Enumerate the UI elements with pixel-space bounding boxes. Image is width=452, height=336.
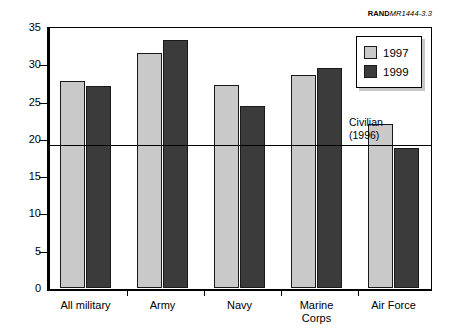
legend-swatch-1999 [364,65,377,78]
chart-legend: 1997 1999 [356,36,422,88]
civilian-annotation-line-2: (1996) [349,129,383,142]
legend-item-1997: 1997 [364,43,414,62]
rand-document-label: MR1444-3.3 [390,9,432,18]
bar-1999 [163,40,188,288]
bar-1997 [214,85,239,288]
x-tick-mark [358,289,359,296]
bar-group [204,28,281,289]
rand-source-credit: RANDMR1444-3.3 [368,9,432,18]
legend-item-1999: 1999 [364,62,414,81]
y-tick-label: 20 [1,134,41,145]
x-category-label: Air Force [339,299,449,312]
y-tick-label: 35 [1,22,41,33]
y-tick-label: 0 [1,283,41,294]
bar-1997 [60,81,85,288]
y-tick-mark [39,65,47,66]
bar-1999 [394,148,419,288]
y-tick-mark [39,252,47,253]
bar-1999 [240,106,265,288]
rand-organization-label: RAND [368,9,390,18]
y-tick-label: 30 [1,59,41,70]
bar-1999 [86,86,111,288]
y-tick-mark [39,140,47,141]
civilian-annotation-line-1: Civilian [349,116,383,129]
civilian-reference-line [50,145,431,146]
bar-group [281,28,358,289]
civilian-annotation: Civilian (1996) [349,116,383,141]
y-tick-mark [39,103,47,104]
y-tick-mark [39,177,47,178]
chart-figure: RANDMR1444-3.3 05101520253035 Civilian (… [0,0,452,336]
bar-group [127,28,204,289]
bar-group [50,28,127,289]
bar-1999 [317,68,342,288]
y-tick-label: 10 [1,208,41,219]
legend-swatch-1997 [364,46,377,59]
bar-1997 [137,53,162,288]
bar-1997 [368,124,393,288]
legend-label-1997: 1997 [383,47,409,59]
y-tick-label: 5 [1,246,41,257]
y-tick-label: 25 [1,97,41,108]
legend-label-1999: 1999 [383,66,409,78]
y-tick-label: 15 [1,171,41,182]
bar-1997 [291,75,316,288]
x-tick-mark [204,289,205,296]
y-tick-mark [39,214,47,215]
x-tick-mark [127,289,128,296]
x-tick-mark [281,289,282,296]
